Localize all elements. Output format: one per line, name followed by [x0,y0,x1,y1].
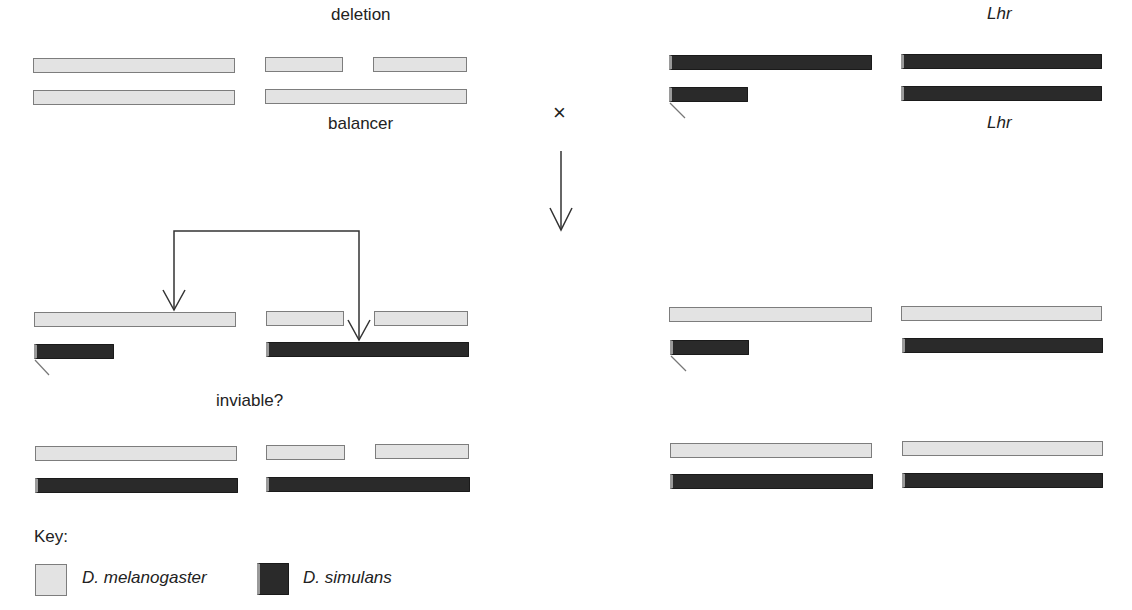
connector-overlay [0,0,1132,610]
bracket-arrow-icon [163,231,370,340]
y-hook-offspring-right [671,356,686,371]
legend-swatch-melanogaster [35,564,67,596]
legend-title: Key: [34,527,68,547]
y-hook-parent [670,103,685,118]
down-arrow-icon [550,151,572,230]
legend-label-simulans: D. simulans [303,568,392,588]
legend-label-melanogaster: D. melanogaster [82,568,207,588]
legend-swatch-simulans [257,563,289,595]
y-hook-offspring-left [35,360,49,375]
